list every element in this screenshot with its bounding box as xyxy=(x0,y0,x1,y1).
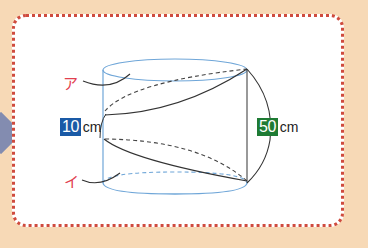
length-value: 50 xyxy=(257,118,278,136)
lower-solid-curve xyxy=(104,139,247,181)
lower-dashed-curve xyxy=(105,139,247,181)
height-measure: 10 cm xyxy=(60,118,101,136)
upper-solid-curve xyxy=(105,69,247,115)
label-i: イ xyxy=(64,170,79,191)
leader-i xyxy=(82,173,120,183)
cylinder-bottom-front xyxy=(103,183,247,194)
upper-dashed-curve xyxy=(105,69,247,111)
cylinder-diagram xyxy=(0,0,368,248)
height-value: 10 xyxy=(60,118,81,136)
length-unit: cm xyxy=(280,118,299,136)
length-measure: 50 cm xyxy=(257,118,298,136)
leader-a xyxy=(83,74,130,85)
label-a: ア xyxy=(63,72,78,93)
height-unit: cm xyxy=(83,118,102,136)
